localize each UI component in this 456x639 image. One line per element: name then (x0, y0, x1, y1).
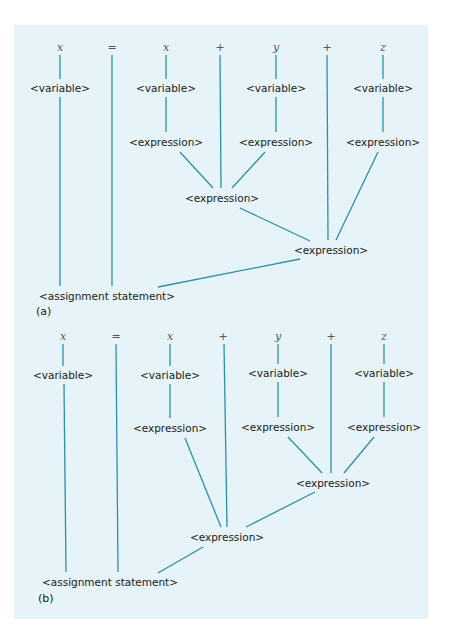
operator-terminal: + (322, 42, 331, 53)
expression-node: <expression> (346, 137, 420, 148)
tree-edge (185, 438, 221, 527)
variable-terminal: z (381, 331, 387, 342)
tree-edge (158, 259, 300, 287)
tree-edge (240, 208, 310, 241)
tree-edge (64, 384, 66, 572)
variable-node: <variable> (353, 83, 413, 94)
expression-node: <expression> (185, 193, 259, 204)
variable-terminal: x (163, 42, 169, 53)
expression-node: <expression> (133, 423, 207, 434)
variable-node: <variable> (33, 370, 93, 381)
variable-node: <variable> (140, 370, 200, 381)
tree-edge (158, 547, 203, 573)
operator-terminal: = (111, 331, 120, 342)
variable-terminal: y (275, 331, 281, 342)
expression-node: <expression> (296, 478, 370, 489)
variable-node: <variable> (30, 83, 90, 94)
tree-edge (116, 344, 118, 572)
variable-terminal: z (380, 42, 386, 53)
tree-edge (246, 492, 315, 527)
variable-node: <variable> (136, 83, 196, 94)
expression-node: <expression> (294, 245, 368, 256)
operator-terminal: = (107, 42, 116, 53)
tree-edge (344, 437, 374, 473)
tree-edge (224, 344, 227, 527)
variable-node: <variable> (354, 368, 414, 379)
panel-label: (b) (38, 592, 54, 605)
operator-terminal: + (218, 331, 227, 342)
assignment-statement-node: <assignment statement> (42, 577, 178, 588)
expression-node: <expression> (347, 422, 421, 433)
operator-terminal: + (326, 331, 335, 342)
operator-terminal: + (215, 42, 224, 53)
expression-node: <expression> (190, 532, 264, 543)
tree-edge (336, 152, 378, 240)
variable-node: <variable> (248, 368, 308, 379)
variable-terminal: x (167, 331, 173, 342)
tree-edge (220, 55, 221, 188)
expression-node: <expression> (241, 422, 315, 433)
variable-terminal: x (60, 331, 66, 342)
tree-edge (288, 437, 322, 473)
expression-node: <expression> (239, 137, 313, 148)
variable-terminal: x (57, 42, 63, 53)
tree-edge (232, 152, 265, 188)
parse-tree-edges (0, 0, 456, 639)
panel-label: (a) (36, 305, 51, 318)
expression-node: <expression> (129, 137, 203, 148)
variable-node: <variable> (246, 83, 306, 94)
variable-terminal: y (273, 42, 279, 53)
tree-edge (180, 152, 213, 188)
assignment-statement-node: <assignment statement> (39, 291, 175, 302)
tree-edge (327, 55, 328, 240)
